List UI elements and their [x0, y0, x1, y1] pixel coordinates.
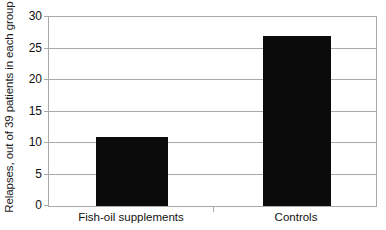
y-axis-tick-label: 10 — [29, 135, 42, 149]
x-axis-label-1: Controls — [275, 211, 318, 223]
x-axis-label-0: Fish-oil supplements — [78, 211, 183, 223]
y-axis-tick-label: 30 — [29, 9, 42, 23]
y-axis-tick-label: 0 — [35, 198, 42, 212]
plot-area — [48, 16, 377, 207]
y-axis-tick-labels: 051015202530 — [18, 0, 45, 230]
bar-1 — [263, 36, 331, 206]
y-axis-tick-label: 15 — [29, 104, 42, 118]
y-axis-title: Relapses, out of 39 patients in each gro… — [0, 0, 18, 214]
bar-chart: Relapses, out of 39 patients in each gro… — [0, 0, 386, 230]
bar-0 — [96, 137, 168, 206]
y-axis-tick-label: 5 — [35, 167, 42, 181]
y-axis-title-text: Relapses, out of 39 patients in each gro… — [3, 1, 15, 212]
y-axis-tick-label: 25 — [29, 41, 42, 55]
y-axis-tick-label: 20 — [29, 72, 42, 86]
x-axis-labels: Fish-oil supplementsControls — [48, 211, 377, 230]
